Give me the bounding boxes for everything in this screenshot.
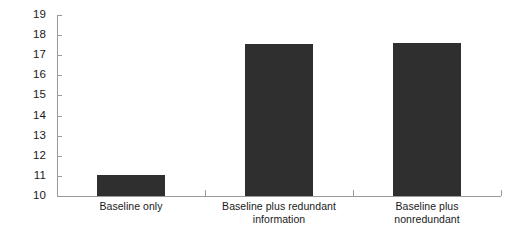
- bar: [97, 175, 165, 196]
- x-axis-line: [57, 196, 501, 197]
- y-tick-mark: [57, 15, 62, 16]
- y-tick-label: 19: [0, 9, 46, 21]
- x-tick-mark: [353, 190, 354, 196]
- y-tick-mark: [57, 95, 62, 96]
- bar: [245, 44, 313, 196]
- y-tick-mark: [57, 156, 62, 157]
- x-tick-mark: [205, 190, 206, 196]
- y-tick-label: 13: [0, 130, 46, 142]
- y-tick-label: 18: [0, 29, 46, 41]
- y-tick-label: 12: [0, 150, 46, 162]
- y-tick-mark: [57, 136, 62, 137]
- y-tick-mark: [57, 35, 62, 36]
- y-tick-mark: [57, 55, 62, 56]
- y-tick-label: 16: [0, 69, 46, 81]
- y-tick-label: 10: [0, 190, 46, 202]
- y-tick-mark: [57, 176, 62, 177]
- bar-chart: 10111213141516171819 Baseline onlyBaseli…: [0, 0, 514, 233]
- x-category-label-line: nonredundant: [353, 213, 501, 226]
- x-category-label: Baseline only: [57, 200, 205, 213]
- y-tick-label: 17: [0, 49, 46, 61]
- y-axis-line: [57, 15, 58, 197]
- bar: [393, 43, 461, 196]
- x-category-label-line: Baseline only: [57, 200, 205, 213]
- x-tick-mark: [57, 190, 58, 196]
- y-tick-mark: [57, 116, 62, 117]
- y-tick-mark: [57, 75, 62, 76]
- x-category-label: Baseline plusnonredundant: [353, 200, 501, 225]
- y-tick-label: 15: [0, 89, 46, 101]
- y-tick-label: 11: [0, 170, 46, 182]
- x-tick-mark: [501, 190, 502, 196]
- x-category-label: Baseline plus redundantinformation: [205, 200, 353, 225]
- y-tick-label: 14: [0, 110, 46, 122]
- y-tick-mark: [57, 196, 62, 197]
- x-category-label-line: Baseline plus redundant: [205, 200, 353, 213]
- x-category-label-line: Baseline plus: [353, 200, 501, 213]
- x-category-label-line: information: [205, 213, 353, 226]
